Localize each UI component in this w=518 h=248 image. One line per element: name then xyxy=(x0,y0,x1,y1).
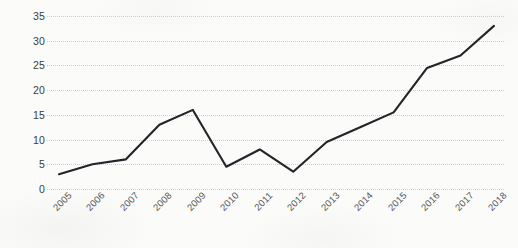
y-tick-label-5: 5 xyxy=(3,159,45,170)
y-tick-label-35: 35 xyxy=(3,11,45,22)
x-tick-label-2007: 2007 xyxy=(118,190,140,212)
y-axis-tick-labels: 05101520253035 xyxy=(0,16,45,189)
x-tick-label-2017: 2017 xyxy=(453,190,475,212)
x-tick-label-2006: 2006 xyxy=(85,190,107,212)
y-tick-label-20: 20 xyxy=(3,85,45,96)
series-line-group xyxy=(47,16,504,189)
x-tick-label-2016: 2016 xyxy=(419,190,441,212)
gridline-0 xyxy=(47,189,504,190)
plot-area xyxy=(47,16,504,189)
y-tick-label-15: 15 xyxy=(3,110,45,121)
x-tick-label-2018: 2018 xyxy=(486,190,508,212)
x-tick-label-2015: 2015 xyxy=(386,190,408,212)
x-tick-label-2013: 2013 xyxy=(319,190,341,212)
x-tick-label-2014: 2014 xyxy=(352,190,374,212)
x-tick-label-2008: 2008 xyxy=(152,190,174,212)
y-tick-label-0: 0 xyxy=(3,184,45,195)
y-tick-label-10: 10 xyxy=(3,134,45,145)
line-chart: 05101520253035 2005200620072008200920102… xyxy=(0,0,518,248)
x-axis-tick-labels: 2005200620072008200920102011201220132014… xyxy=(47,192,504,242)
series-line xyxy=(59,26,494,174)
x-tick-label-2010: 2010 xyxy=(219,190,241,212)
x-tick-label-2005: 2005 xyxy=(51,190,73,212)
x-tick-label-2011: 2011 xyxy=(252,190,274,212)
y-tick-label-25: 25 xyxy=(3,60,45,71)
x-tick-label-2012: 2012 xyxy=(285,190,307,212)
y-tick-label-30: 30 xyxy=(3,35,45,46)
x-tick-label-2009: 2009 xyxy=(185,190,207,212)
